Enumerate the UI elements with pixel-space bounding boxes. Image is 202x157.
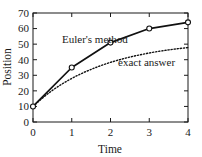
- data-point-marker: [69, 65, 74, 70]
- x-tick-label: 2: [108, 126, 114, 138]
- annotation-exact-answer: exact answer: [118, 56, 175, 68]
- euler-vs-exact-line-chart: 010203040506070 01234 Euler's method exa…: [0, 0, 202, 157]
- x-tick-label: 1: [69, 126, 75, 138]
- chart-figure: 010203040506070 01234 Euler's method exa…: [0, 0, 202, 157]
- y-tick-label: 20: [18, 85, 30, 97]
- x-axis-tick-labels: 01234: [30, 126, 191, 138]
- data-point-marker: [31, 104, 36, 109]
- y-tick-label: 10: [18, 100, 30, 112]
- annotation-eulers-method: Euler's method: [62, 33, 128, 45]
- y-axis-tick-labels: 010203040506070: [18, 7, 30, 128]
- y-tick-label: 40: [18, 54, 30, 66]
- x-axis-title: Time: [98, 143, 122, 155]
- data-point-marker: [186, 20, 191, 25]
- x-tick-label: 4: [185, 126, 191, 138]
- y-axis-title: Position: [1, 48, 13, 86]
- y-tick-label: 50: [18, 38, 30, 50]
- x-tick-label: 0: [30, 126, 36, 138]
- y-tick-label: 70: [18, 7, 30, 19]
- y-tick-label: 30: [18, 69, 30, 81]
- data-point-marker: [147, 26, 152, 31]
- y-tick-label: 0: [24, 116, 30, 128]
- y-tick-label: 60: [18, 22, 30, 34]
- x-tick-label: 3: [147, 126, 153, 138]
